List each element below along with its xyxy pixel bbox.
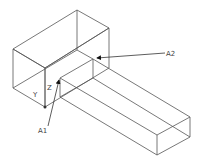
corner-point xyxy=(44,106,47,109)
leader-a2 xyxy=(97,53,165,58)
rectangular-bar xyxy=(60,59,190,155)
large-box xyxy=(13,10,109,107)
wireframe-drawing: Y Z A1 A2 xyxy=(0,0,200,165)
point-a2-label: A2 xyxy=(166,50,175,58)
point-a1-label: A1 xyxy=(38,127,47,135)
axis-z-label: Z xyxy=(47,84,52,92)
axis-y-label: Y xyxy=(32,91,38,99)
